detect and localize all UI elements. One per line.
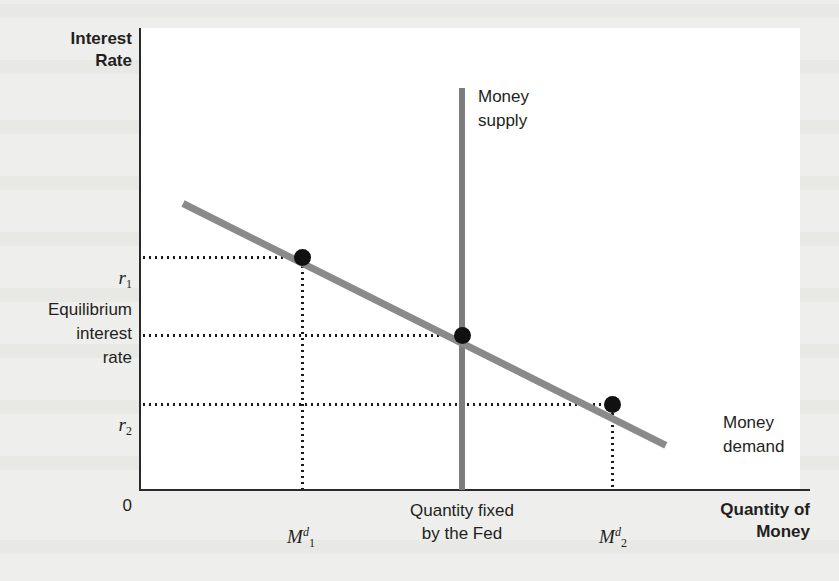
m1-subscript: 1 — [309, 536, 315, 550]
y-tick-label-r2: r2 — [20, 392, 132, 442]
guide-line-r2-horizontal — [141, 403, 613, 406]
data-point-equilibrium — [454, 327, 471, 344]
x-tick-label-m2: Md2 — [574, 499, 652, 554]
r1-symbol: r — [119, 267, 126, 288]
y-axis-line — [139, 28, 141, 491]
r2-subscript: 2 — [126, 424, 132, 438]
plot-area — [141, 28, 800, 490]
data-point-r2-m2 — [604, 396, 621, 413]
m1-symbol: M — [287, 526, 303, 547]
money-supply-label: Money supply — [478, 85, 598, 133]
m2-symbol: M — [599, 526, 615, 547]
x-tick-label-m1: Md1 — [262, 499, 340, 554]
x-tick-label-fed: Quantity fixed by the Fed — [382, 499, 542, 545]
money-demand-label: Money demand — [723, 411, 833, 459]
y-tick-label-equilibrium: Equilibrium interest rate — [10, 298, 132, 370]
r1-subscript: 1 — [126, 277, 132, 291]
scan-artifact-band — [0, 4, 839, 18]
guide-line-r1-horizontal — [141, 256, 303, 259]
m2-subscript: 2 — [621, 536, 627, 550]
y-tick-label-r1: r1 — [20, 245, 132, 295]
money-market-figure: Interest Rate Quantity of Money 0 r1 Equ… — [0, 0, 839, 581]
money-supply-curve — [459, 88, 465, 490]
data-point-r1-m1 — [294, 249, 311, 266]
guide-line-m1-vertical — [301, 258, 304, 489]
r2-symbol: r — [119, 414, 126, 435]
y-axis-title: Interest Rate — [0, 28, 132, 72]
x-axis-line — [139, 489, 810, 491]
origin-label: 0 — [104, 495, 132, 517]
